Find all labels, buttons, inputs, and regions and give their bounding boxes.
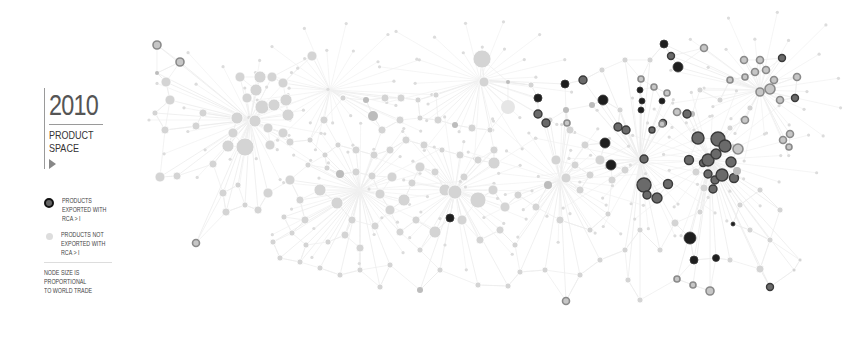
product-node-exported[interactable] — [651, 84, 657, 90]
product-node-not-exported[interactable] — [757, 187, 763, 193]
product-node-not-exported[interactable] — [544, 181, 552, 189]
product-node-exported[interactable] — [711, 149, 721, 159]
product-node-not-exported[interactable] — [228, 128, 238, 138]
product-node-not-exported[interactable] — [324, 165, 330, 171]
product-node-exported[interactable] — [598, 95, 608, 105]
play-triangle-icon[interactable] — [49, 159, 56, 169]
product-node-not-exported[interactable] — [396, 228, 404, 236]
product-node-exported[interactable] — [767, 284, 774, 291]
product-node-exported[interactable] — [726, 157, 736, 167]
product-node-not-exported[interactable] — [727, 257, 733, 263]
product-node-not-exported[interactable] — [357, 267, 363, 273]
product-node-not-exported[interactable] — [475, 282, 481, 288]
product-node-exported[interactable] — [640, 155, 648, 163]
product-node-not-exported[interactable] — [431, 168, 439, 176]
product-node-not-exported[interactable] — [561, 173, 571, 183]
product-node-not-exported[interactable] — [402, 136, 410, 144]
product-node-exported[interactable] — [637, 178, 651, 192]
product-node-not-exported[interactable] — [608, 176, 616, 184]
product-node-not-exported[interactable] — [286, 138, 294, 146]
product-node-exported[interactable] — [579, 76, 587, 84]
product-node-exported[interactable] — [563, 298, 570, 305]
product-node-not-exported[interactable] — [460, 173, 468, 181]
product-node-not-exported[interactable] — [209, 160, 217, 168]
product-node-not-exported[interactable] — [371, 222, 379, 230]
product-node-not-exported[interactable] — [487, 127, 493, 133]
product-node-exported[interactable] — [742, 117, 749, 124]
product-node-not-exported[interactable] — [542, 267, 548, 273]
product-node-exported[interactable] — [683, 110, 691, 118]
product-node-exported[interactable] — [756, 88, 764, 96]
product-node-exported[interactable] — [704, 170, 712, 178]
product-node-exported[interactable] — [731, 222, 735, 226]
product-node-not-exported[interactable] — [219, 189, 227, 197]
product-node-not-exported[interactable] — [589, 102, 595, 108]
product-node-exported[interactable] — [534, 94, 542, 102]
product-node-exported[interactable] — [660, 40, 668, 48]
product-node-not-exported[interactable] — [595, 155, 605, 165]
product-node-not-exported[interactable] — [161, 126, 169, 134]
product-node-not-exported[interactable] — [479, 77, 489, 87]
product-node-not-exported[interactable] — [267, 72, 277, 82]
product-node-not-exported[interactable] — [506, 80, 510, 84]
product-node-exported[interactable] — [719, 140, 731, 152]
product-node-not-exported[interactable] — [474, 156, 482, 164]
product-node-exported[interactable] — [153, 41, 161, 49]
product-node-exported[interactable] — [763, 67, 770, 74]
product-node-not-exported[interactable] — [415, 162, 425, 172]
product-node-not-exported[interactable] — [242, 202, 248, 208]
product-node-not-exported[interactable] — [340, 95, 346, 101]
product-node-not-exported[interactable] — [352, 168, 360, 176]
product-node-not-exported[interactable] — [417, 247, 423, 253]
product-node-not-exported[interactable] — [457, 215, 467, 225]
product-node-exported[interactable] — [706, 287, 714, 295]
product-node-exported[interactable] — [542, 119, 550, 127]
product-node-not-exported[interactable] — [470, 192, 486, 208]
product-node-not-exported[interactable] — [617, 107, 623, 113]
product-node-exported[interactable] — [713, 255, 720, 262]
product-node-not-exported[interactable] — [571, 161, 579, 169]
product-node-not-exported[interactable] — [397, 94, 405, 102]
product-node-not-exported[interactable] — [155, 71, 159, 75]
product-node-not-exported[interactable] — [448, 185, 462, 199]
product-node-not-exported[interactable] — [798, 258, 802, 262]
product-node-not-exported[interactable] — [314, 184, 326, 196]
product-node-not-exported[interactable] — [434, 116, 442, 124]
product-node-not-exported[interactable] — [468, 124, 476, 132]
product-node-exported[interactable] — [674, 276, 680, 282]
product-node-not-exported[interactable] — [297, 259, 303, 265]
product-node-exported[interactable] — [701, 45, 708, 52]
product-node-not-exported[interactable] — [305, 162, 311, 168]
product-node-exported[interactable] — [659, 121, 665, 127]
product-node-not-exported[interactable] — [341, 231, 349, 239]
product-node-exported[interactable] — [446, 214, 454, 222]
product-node-not-exported[interactable] — [700, 184, 708, 192]
product-node-not-exported[interactable] — [412, 216, 420, 224]
product-node-not-exported[interactable] — [551, 155, 561, 165]
product-node-not-exported[interactable] — [387, 172, 397, 182]
product-node-not-exported[interactable] — [303, 242, 309, 248]
product-node-not-exported[interactable] — [307, 51, 317, 61]
product-node-not-exported[interactable] — [370, 151, 378, 159]
product-node-not-exported[interactable] — [381, 94, 389, 102]
product-node-exported[interactable] — [561, 80, 569, 88]
product-node-not-exported[interactable] — [415, 97, 421, 103]
product-node-exported[interactable] — [534, 110, 542, 118]
product-node-exported[interactable] — [794, 74, 801, 81]
product-node-not-exported[interactable] — [437, 267, 443, 273]
product-node-exported[interactable] — [684, 232, 696, 244]
product-node-not-exported[interactable] — [717, 97, 723, 103]
product-node-not-exported[interactable] — [368, 172, 376, 180]
product-node-not-exported[interactable] — [417, 287, 423, 293]
product-node-not-exported[interactable] — [278, 78, 288, 88]
product-node-not-exported[interactable] — [417, 115, 423, 121]
product-node-not-exported[interactable] — [528, 82, 534, 88]
product-node-not-exported[interactable] — [622, 57, 628, 63]
product-node-exported[interactable] — [668, 53, 675, 60]
product-node-not-exported[interactable] — [387, 262, 393, 268]
product-space-network[interactable] — [0, 0, 854, 343]
product-node-not-exported[interactable] — [501, 100, 515, 114]
product-node-exported[interactable] — [664, 180, 673, 189]
product-node-not-exported[interactable] — [254, 206, 262, 214]
product-node-not-exported[interactable] — [586, 171, 594, 179]
